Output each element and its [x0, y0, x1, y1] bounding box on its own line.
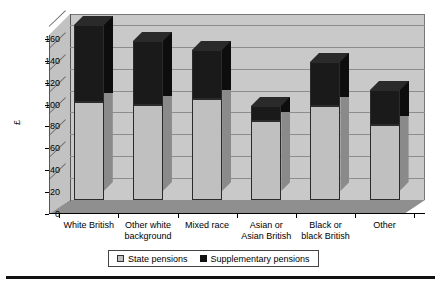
bar-side-state-pensions [104, 93, 113, 191]
y-axis-tick-mark [45, 148, 49, 149]
y-axis-ticks: 020406080100120140160 [22, 0, 60, 272]
x-axis-category-label-line: Other [347, 220, 422, 231]
y-axis-tick-mark [45, 126, 49, 127]
y-axis-title: £ [8, 112, 26, 132]
y-axis-tick-label: 160 [26, 34, 60, 43]
y-axis-tick-label: 0 [26, 210, 60, 219]
y-axis-tick-mark [45, 214, 49, 215]
bar-segment-supplementary-pensions [251, 106, 281, 121]
bar-column [370, 90, 400, 201]
bar-column [74, 25, 104, 200]
y-axis-tick-mark [45, 39, 49, 40]
bar-side-state-pensions [400, 116, 409, 191]
bar-segment-supplementary-pensions [133, 41, 163, 104]
bar-column [251, 106, 281, 200]
y-axis-tick-label: 40 [26, 166, 60, 175]
bar-side-state-pensions [222, 90, 231, 191]
bar-side-state-pensions [281, 112, 290, 191]
x-axis-tick-mark [237, 214, 238, 218]
x-axis-category-label: Other [347, 220, 422, 231]
y-axis-tick-label: 20 [26, 188, 60, 197]
bar-side-state-pensions [340, 97, 349, 191]
bar-segment-state-pensions [370, 125, 400, 200]
chart-plot-area: 020406080100120140160 £ White BritishOth… [0, 0, 441, 272]
bar-column [133, 41, 163, 200]
bar-segment-supplementary-pensions [370, 90, 400, 125]
x-axis-category-label-line: black British [288, 231, 363, 242]
bar-side-supplementary-pensions [104, 16, 113, 93]
gridline [70, 47, 425, 48]
bar-column [310, 62, 340, 200]
x-axis-tick-mark [355, 214, 356, 218]
y-axis-tick-label: 100 [26, 100, 60, 109]
legend-item-label: Supplementary pensions [211, 254, 310, 264]
x-axis-tick-mark [414, 214, 415, 218]
footer-divider-rule [6, 276, 435, 279]
bar-segment-state-pensions [192, 99, 222, 200]
legend-item: State pensions [117, 254, 188, 264]
x-axis-tick-mark [118, 214, 119, 218]
legend-item: Supplementary pensions [200, 254, 310, 264]
black-square-icon [200, 255, 207, 262]
bar-segment-state-pensions [251, 121, 281, 200]
gray-square-icon [117, 255, 124, 262]
bar-segment-state-pensions [310, 106, 340, 200]
x-axis-tick-mark [59, 214, 60, 218]
chart-legend: State pensionsSupplementary pensions [108, 250, 319, 267]
y-axis-tick-label: 60 [26, 144, 60, 153]
y-axis-tick-mark [45, 192, 49, 193]
y-axis-tick-mark [45, 83, 49, 84]
plot-corner-edge [70, 14, 71, 201]
gridline [70, 69, 425, 70]
y-axis-tick-mark [45, 105, 49, 106]
pension-income-stacked-bar-figure: 020406080100120140160 £ White BritishOth… [0, 0, 441, 289]
y-axis-tick-label: 80 [26, 122, 60, 131]
plot-floor [49, 200, 425, 214]
bar-segment-supplementary-pensions [74, 25, 104, 102]
legend-item-label: State pensions [128, 254, 188, 264]
y-axis-tick-label: 140 [26, 56, 60, 65]
bar-side-state-pensions [163, 96, 172, 191]
bar-segment-supplementary-pensions [192, 50, 222, 99]
gridline [70, 25, 425, 26]
x-axis-tick-mark [296, 214, 297, 218]
x-axis-category-label-line: background [110, 231, 185, 242]
y-axis-tick-mark [45, 170, 49, 171]
bar-segment-state-pensions [133, 105, 163, 200]
y-axis-tick-mark [45, 61, 49, 62]
bar-side-supplementary-pensions [163, 32, 172, 95]
bar-segment-state-pensions [74, 102, 104, 200]
x-axis-tick-mark [178, 214, 179, 218]
bar-segment-supplementary-pensions [310, 62, 340, 106]
bar-column [192, 50, 222, 200]
y-axis-tick-label: 120 [26, 78, 60, 87]
